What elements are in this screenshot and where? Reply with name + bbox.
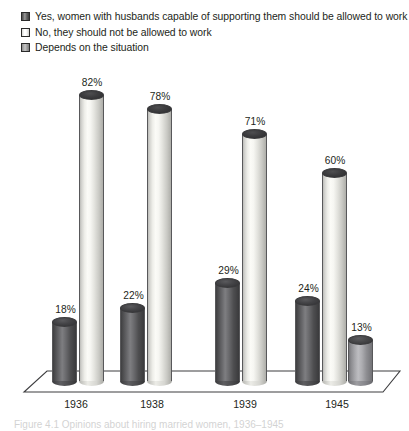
cylinder-body: [147, 109, 172, 381]
year-label-1939: 1939: [215, 398, 275, 410]
cylinder-body: [348, 340, 373, 381]
value-label-yes-1938: 22%: [118, 290, 149, 301]
figure-caption: Figure 4.1 Opinions about hiring married…: [14, 419, 404, 431]
bar-yes-1945: [295, 296, 320, 381]
value-label-yes-1945: 24%: [293, 283, 324, 294]
year-label-1936: 1936: [46, 398, 106, 410]
bar-yes-1938: [120, 303, 145, 381]
cylinder-top-ellipse: [215, 278, 240, 288]
bar-no-1938: [147, 104, 172, 381]
cylinder-top-ellipse: [120, 303, 145, 313]
bar-no-1936: [79, 90, 104, 381]
year-label-1945: 1945: [307, 398, 367, 410]
cylinder-body: [295, 301, 320, 381]
cylinder-top-ellipse: [242, 129, 267, 139]
cylinder-top-ellipse: [79, 90, 104, 100]
bar-no-1945: [322, 168, 347, 381]
value-label-no-1939: 71%: [240, 116, 271, 127]
cylinder-body: [322, 173, 347, 381]
cylinder-body: [52, 322, 77, 381]
cylinder-body: [242, 134, 267, 381]
cylinder-top-ellipse: [295, 296, 320, 306]
value-label-depends-1945: 13%: [346, 322, 377, 333]
value-label-yes-1939: 29%: [213, 265, 244, 276]
year-label-1938: 1938: [122, 398, 182, 410]
bar-yes-1936: [52, 317, 77, 381]
value-label-yes-1936: 18%: [50, 304, 81, 315]
cylinder-body: [215, 283, 240, 381]
value-label-no-1936: 82%: [77, 77, 108, 88]
bar-depends-1945: [348, 335, 373, 381]
cylinder-top-ellipse: [322, 168, 347, 178]
cylinder-top-ellipse: [348, 335, 373, 345]
value-label-no-1945: 60%: [320, 155, 351, 166]
cylinder-body: [79, 95, 104, 381]
cylinder-top-ellipse: [147, 104, 172, 114]
value-label-no-1938: 78%: [145, 91, 176, 102]
bar-yes-1939: [215, 278, 240, 381]
cylinder-body: [120, 308, 145, 381]
bar-no-1939: [242, 129, 267, 381]
